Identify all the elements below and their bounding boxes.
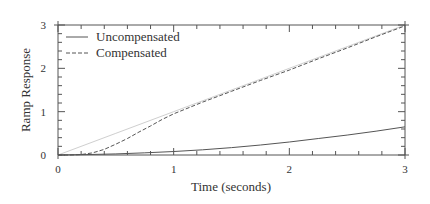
y-tick-label: 1 [41,106,47,118]
y-tick-label: 0 [41,149,47,161]
x-tick-label: 0 [55,163,61,175]
x-tick-label: 1 [171,163,177,175]
legend-label-uncompensated: Uncompensated [96,29,180,44]
y-tick-label: 2 [41,62,47,74]
series-uncompensated [58,127,405,155]
x-tick-label: 2 [287,163,293,175]
y-tick-label: 3 [41,19,47,31]
legend: Uncompensated Compensated [66,29,180,60]
ramp-response-chart: 01230123 Time (seconds) Ramp Response Un… [0,0,430,204]
y-axis-label: Ramp Response [18,48,33,132]
legend-label-compensated: Compensated [96,45,167,60]
x-axis-label: Time (seconds) [191,179,271,194]
x-tick-label: 3 [402,163,408,175]
